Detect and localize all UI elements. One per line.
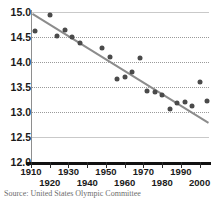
chart-container: 15.0 14.5 14.0 13.5 13.0 12.5 12.0 19101… [0, 0, 211, 198]
gridline-13-0 [31, 112, 209, 113]
gridline-12-5 [31, 137, 209, 138]
gridline-13-5 [31, 87, 209, 88]
data-point [55, 34, 60, 39]
x-tick-label: 1940 [77, 178, 98, 188]
data-point [182, 99, 187, 104]
gridline-14-0 [31, 62, 209, 63]
data-point [160, 93, 165, 98]
x-axis-tick [125, 162, 126, 168]
y-tick-label: 13.5 [3, 82, 31, 92]
data-point [167, 107, 172, 112]
data-point [197, 80, 202, 85]
data-point [205, 99, 210, 104]
x-tick-label: 1920 [39, 178, 60, 188]
data-point [77, 41, 82, 46]
x-tick-label: 1930 [58, 167, 79, 177]
x-tick-label: 1910 [20, 167, 41, 177]
data-point [47, 12, 52, 17]
data-point [115, 76, 120, 81]
x-axis-tick [50, 162, 51, 168]
data-point [32, 28, 37, 33]
data-point [145, 89, 150, 94]
data-point [62, 27, 67, 32]
plot-area [31, 12, 209, 162]
x-tick-label: 1960 [114, 178, 135, 188]
trend-line [32, 13, 209, 124]
y-tick-label: 13.0 [3, 107, 31, 117]
y-tick-label: 14.0 [3, 57, 31, 67]
data-point [100, 45, 105, 50]
x-tick-label: 2000 [189, 178, 210, 188]
x-tick-label: 1990 [170, 167, 191, 177]
data-point [175, 101, 180, 106]
data-point [130, 69, 135, 74]
y-axis-line [31, 10, 32, 164]
y-tick-label: 12.5 [3, 132, 31, 142]
gridline-15-0 [31, 12, 209, 13]
x-tick-label: 1950 [95, 167, 116, 177]
x-axis-tick [87, 162, 88, 168]
x-tick-label: 1970 [133, 167, 154, 177]
x-axis-tick [200, 162, 201, 168]
y-tick-label: 15.0 [3, 7, 31, 17]
data-point [107, 55, 112, 60]
data-point [190, 104, 195, 109]
y-tick-label: 14.5 [3, 32, 31, 42]
data-point [70, 35, 75, 40]
x-axis-tick [162, 162, 163, 168]
data-point [122, 75, 127, 80]
source-note: Source: United States Olympic Committee [4, 189, 209, 198]
data-point [152, 90, 157, 95]
x-axis-line [26, 162, 211, 165]
data-point [137, 56, 142, 61]
x-tick-label: 1980 [152, 178, 173, 188]
